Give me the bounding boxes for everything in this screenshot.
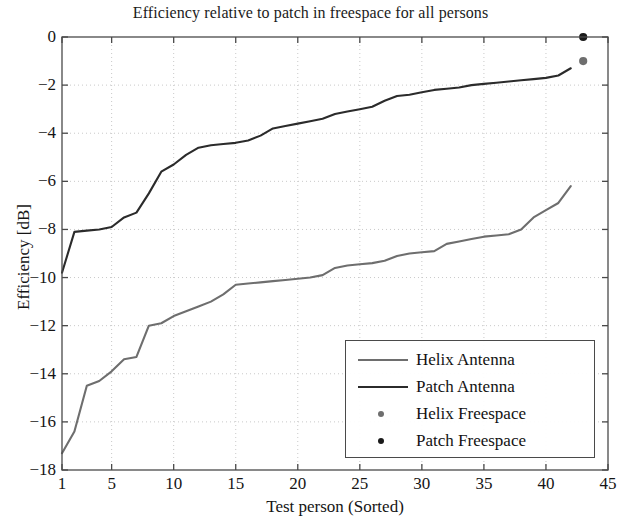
legend-dot-icon [378,411,384,417]
legend-item[interactable]: Helix Freespace [346,401,596,427]
y-tick-label: −8 [12,219,56,239]
legend-marker-swatch [346,401,416,427]
x-tick-label: 40 [526,474,566,494]
legend-line-swatch [346,347,416,373]
legend-label: Patch Freespace [416,431,526,451]
y-tick-label: −12 [12,316,56,336]
chart-figure: Efficiency relative to patch in freespac… [0,0,621,524]
legend-item[interactable]: Helix Antenna [346,347,596,373]
legend-line-glyph [358,359,408,361]
x-tick-label: 20 [278,474,318,494]
legend-label: Helix Freespace [416,404,526,424]
y-tick-label: −16 [12,412,56,432]
legend-label: Patch Antenna [416,377,515,397]
legend-item[interactable]: Patch Freespace [346,428,596,454]
y-tick-label: −4 [12,123,56,143]
x-tick-label: 25 [340,474,380,494]
legend-item[interactable]: Patch Antenna [346,374,596,400]
x-tick-label: 15 [216,474,256,494]
legend-line-glyph [358,386,408,388]
y-tick-label: −2 [12,75,56,95]
x-tick-label: 1 [42,474,82,494]
x-tick-label: 30 [402,474,442,494]
x-tick-label: 45 [588,474,621,494]
x-tick-label: 5 [92,474,132,494]
legend-marker-swatch [346,428,416,454]
y-tick-label: −14 [12,364,56,384]
y-tick-labels: 0−2−4−6−8−10−12−14−16−18 [8,0,56,524]
y-tick-label: −6 [12,171,56,191]
legend-label: Helix Antenna [416,350,515,370]
y-tick-label: 0 [12,27,56,47]
x-tick-label: 35 [464,474,504,494]
legend-line-swatch [346,374,416,400]
chart-legend: Helix AntennaPatch AntennaHelix Freespac… [345,340,595,458]
legend-dot-icon [378,438,384,444]
x-tick-label: 10 [154,474,194,494]
series-marker [579,57,587,65]
y-tick-label: −10 [12,268,56,288]
